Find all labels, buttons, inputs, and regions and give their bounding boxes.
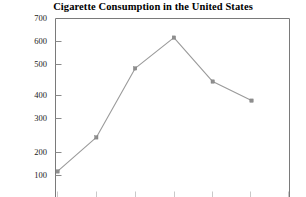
ytick-label-700: 700	[34, 13, 47, 23]
chart-figure: Cigarette Consumption in the United Stat…	[0, 0, 306, 197]
data-point-marker-6	[250, 99, 253, 102]
data-point-marker-4	[172, 36, 175, 39]
ytick-label-100: 100	[34, 170, 47, 180]
data-line	[58, 38, 252, 172]
data-point-marker-1	[56, 170, 59, 173]
data-series-cigarette-consumption	[56, 36, 253, 173]
ytick-label-500: 500	[34, 59, 47, 69]
ytick-label-400: 400	[34, 90, 47, 100]
ytick-label-600: 600	[34, 36, 47, 46]
ytick-label-200: 200	[34, 147, 47, 157]
data-point-marker-3	[133, 67, 136, 70]
data-point-marker-2	[95, 136, 98, 139]
data-point-marker-5	[211, 80, 214, 83]
chart-plot-area: 700 600 500 400 300 200 100	[0, 0, 306, 197]
ytick-label-300: 300	[34, 113, 47, 123]
